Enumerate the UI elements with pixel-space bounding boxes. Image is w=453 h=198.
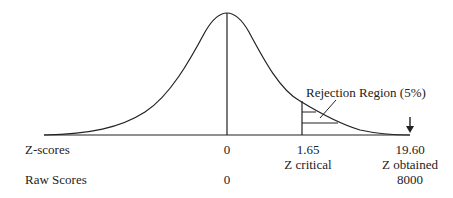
z-critical-value: 1.65 bbox=[297, 142, 320, 157]
normal-curve-diagram: Rejection Region (5%) Z-scores 0 1.65 19… bbox=[0, 0, 453, 198]
z-mean-value: 0 bbox=[224, 142, 231, 157]
z-critical-label: Z critical bbox=[284, 157, 332, 172]
raw-scores-row-label: Raw Scores bbox=[25, 172, 87, 187]
rejection-region-label: Rejection Region (5%) bbox=[306, 85, 426, 100]
raw-mean-value: 0 bbox=[224, 172, 231, 187]
z-obtained-label: Z obtained bbox=[382, 157, 438, 172]
z-scores-row-label: Z-scores bbox=[25, 142, 70, 157]
z-obtained-value: 19.60 bbox=[395, 142, 424, 157]
raw-obtained-value: 8000 bbox=[397, 172, 423, 187]
down-arrow-icon bbox=[406, 117, 414, 133]
annotation-leader-line bbox=[320, 100, 336, 118]
